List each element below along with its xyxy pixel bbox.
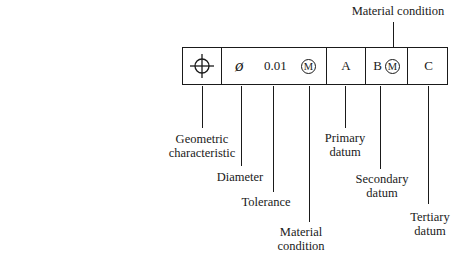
label-geometric-characteristic: Geometriccharacteristic <box>169 132 236 160</box>
tertiary-datum-letter: C <box>424 58 433 74</box>
cell-primary-datum: A <box>327 48 366 84</box>
cell-secondary-datum: B M <box>366 48 408 84</box>
label-tertiary-datum: Tertiarydatum <box>410 210 449 238</box>
leader-diameter <box>241 86 242 166</box>
primary-datum-letter: A <box>341 58 350 74</box>
cell-tertiary-datum: C <box>408 48 449 84</box>
secondary-material-modifier: M <box>385 59 400 74</box>
position-icon <box>189 53 215 79</box>
cell-geometric-characteristic <box>183 48 222 84</box>
feature-control-frame: ø 0.01 M A B M C <box>182 47 448 85</box>
label-tolerance: Tolerance <box>241 195 290 209</box>
leader-material <box>309 86 310 222</box>
leader-material-condition-top <box>393 22 394 47</box>
material-condition-top-label: Material condition <box>352 4 445 18</box>
tolerance-value: 0.01 <box>264 58 287 74</box>
secondary-datum-letter: B <box>373 58 382 74</box>
label-primary-datum: Primarydatum <box>325 131 365 159</box>
label-material-condition: Materialcondition <box>277 225 324 253</box>
leader-geometric <box>202 86 203 128</box>
leader-tolerance <box>273 86 274 192</box>
leader-secondary <box>380 86 381 169</box>
material-condition-modifier: M <box>301 59 316 74</box>
label-diameter: Diameter <box>217 170 264 184</box>
leader-primary <box>345 86 346 128</box>
cell-tolerance: ø 0.01 M <box>222 48 327 84</box>
leader-tertiary <box>428 86 429 204</box>
label-secondary-datum: Secondarydatum <box>356 172 409 200</box>
diameter-icon: ø <box>235 56 244 76</box>
